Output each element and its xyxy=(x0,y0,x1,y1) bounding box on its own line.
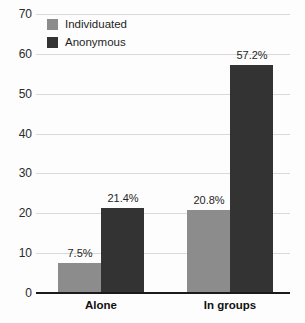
legend-swatch-icon-anonymous xyxy=(47,37,58,48)
plot-area: 7.5% 21.4% 20.8% 57.2% xyxy=(36,14,290,293)
value-label-ingroups-anonymous: 57.2% xyxy=(236,50,267,61)
y-tick-40: 40 xyxy=(4,128,32,140)
value-label-alone-individuated: 7.5% xyxy=(67,248,92,259)
value-label-alone-anonymous: 21.4% xyxy=(107,193,138,204)
legend: Individuated Anonymous xyxy=(47,17,127,53)
y-tick-30: 30 xyxy=(4,167,32,179)
bar-alone-anonymous[interactable] xyxy=(101,208,144,293)
bar-alone-individuated[interactable] xyxy=(58,263,101,293)
y-tick-50: 50 xyxy=(4,88,32,100)
y-tick-20: 20 xyxy=(4,207,32,219)
y-tick-70: 70 xyxy=(4,8,32,20)
value-label-ingroups-individuated: 20.8% xyxy=(193,195,224,206)
x-category-alone: Alone xyxy=(85,299,117,311)
legend-item-anonymous[interactable]: Anonymous xyxy=(47,35,127,50)
y-tick-60: 60 xyxy=(4,48,32,60)
legend-label-anonymous: Anonymous xyxy=(65,37,126,49)
x-axis-line xyxy=(36,292,290,294)
legend-item-individuated[interactable]: Individuated xyxy=(47,17,127,32)
bar-ingroups-anonymous[interactable] xyxy=(230,65,273,293)
gridline-70 xyxy=(36,14,290,15)
y-tick-10: 10 xyxy=(4,247,32,259)
y-tick-0: 0 xyxy=(4,287,32,299)
x-category-in-groups: In groups xyxy=(204,299,256,311)
bar-ingroups-individuated[interactable] xyxy=(187,210,230,293)
y-axis: 70 60 50 40 30 20 10 0 xyxy=(0,0,32,323)
bar-chart: 7.5% 21.4% 20.8% 57.2% 70 60 50 40 30 20… xyxy=(0,0,305,323)
legend-label-individuated: Individuated xyxy=(65,19,127,31)
legend-swatch-icon-individuated xyxy=(47,19,58,30)
